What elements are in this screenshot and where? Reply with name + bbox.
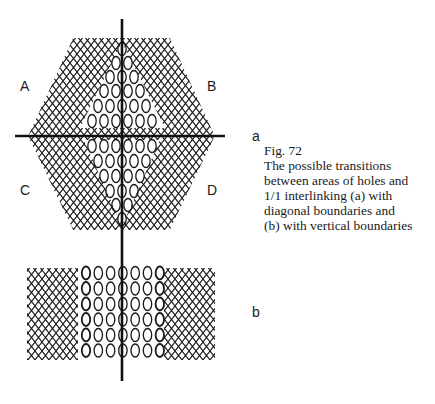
quadrant-label-c: C	[20, 183, 30, 197]
panel-label-a: a	[252, 129, 260, 143]
panel-label-b: b	[252, 305, 260, 319]
caption-line: The possible transitions	[264, 158, 434, 173]
caption-line: 1/1 interlinking (a) with	[264, 188, 434, 203]
figure-caption: Fig. 72 The possible transitions between…	[264, 143, 434, 233]
quadrant-label-b: B	[207, 79, 216, 93]
caption-line: between areas of holes and	[264, 173, 434, 188]
caption-line: diagonal boundaries and	[264, 203, 434, 218]
quadrant-label-d: D	[207, 183, 217, 197]
figure-number: Fig. 72	[264, 143, 434, 158]
figure: A B C D a b Fig. 72 The possible transit…	[0, 0, 435, 404]
quadrant-label-a: A	[20, 79, 29, 93]
caption-line: (b) with vertical boundaries	[264, 218, 434, 233]
